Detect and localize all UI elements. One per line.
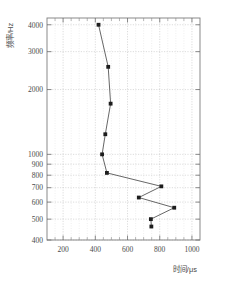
x-tick-label: 200 — [57, 245, 69, 254]
x-axis-title: 时间/μs — [173, 264, 197, 274]
y-tick-label: 800 — [32, 171, 44, 180]
data-point-marker — [149, 217, 153, 221]
y-tick-label: 2000 — [28, 85, 43, 94]
x-tick-label: 600 — [122, 245, 134, 254]
y-tick-label: 700 — [32, 183, 44, 192]
data-point-marker — [105, 171, 109, 175]
y-tick-label: 900 — [32, 160, 44, 169]
x-axis-tick-labels: 2004006008001000 — [57, 245, 199, 254]
data-point-marker — [137, 196, 141, 200]
frequency-vs-time-plot: 4005006007008009001000200030004000 20040… — [0, 0, 225, 288]
data-point-marker — [109, 102, 113, 106]
data-point-marker — [106, 65, 110, 69]
y-tick-label: 400 — [32, 236, 44, 245]
data-point-marker — [97, 23, 101, 27]
plot-frame — [47, 18, 200, 240]
data-point-marker — [172, 206, 176, 210]
data-point-marker — [149, 225, 153, 229]
y-tick-label: 600 — [32, 198, 44, 207]
data-point-marker — [100, 152, 104, 156]
y-tick-label: 1000 — [28, 150, 43, 159]
chart-figure: 4005006007008009001000200030004000 20040… — [0, 0, 225, 288]
y-tick-label: 500 — [32, 215, 44, 224]
data-series-line — [99, 25, 175, 227]
major-gridlines — [47, 18, 200, 240]
x-tick-label: 1000 — [184, 245, 199, 254]
x-tick-label: 400 — [90, 245, 102, 254]
axis-ticks — [47, 18, 200, 240]
y-axis-tick-labels: 4005006007008009001000200030004000 — [28, 21, 43, 245]
data-point-marker — [159, 184, 163, 188]
y-tick-label: 3000 — [28, 47, 43, 56]
minor-gridlines — [55, 18, 184, 240]
data-series-markers — [97, 23, 176, 229]
y-axis-title: 频率/Hz — [5, 23, 15, 49]
x-tick-label: 800 — [154, 245, 166, 254]
data-point-marker — [103, 132, 107, 136]
y-tick-label: 4000 — [28, 21, 43, 30]
